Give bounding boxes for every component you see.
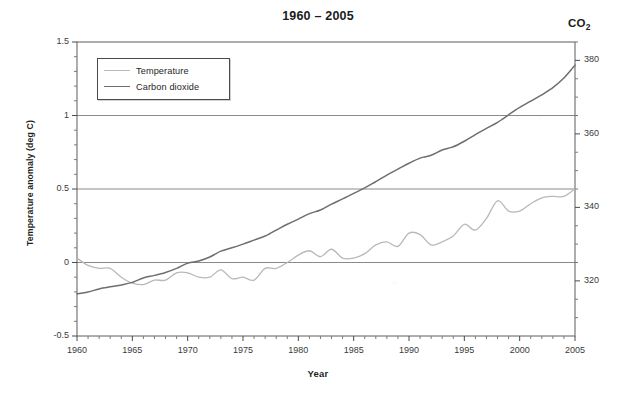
- legend-swatch-carbon-dioxide: [104, 86, 130, 87]
- legend-item-carbon-dioxide: Carbon dioxide: [104, 79, 199, 94]
- right-axis-tick-label: 340: [584, 201, 628, 211]
- legend-label-temperature: Temperature: [136, 66, 189, 76]
- legend-swatch-temperature: [104, 70, 130, 71]
- x-axis-tick-label: 1980: [276, 345, 320, 355]
- right-axis-tick-label: 380: [584, 54, 628, 64]
- legend-item-temperature: Temperature: [104, 63, 189, 78]
- y-axis-tick-label: -0.5: [29, 330, 69, 340]
- right-axis-tick-label: 320: [584, 275, 628, 285]
- y-axis-tick-label: 0.5: [29, 183, 69, 193]
- x-axis-tick-label: 1985: [332, 345, 376, 355]
- x-axis-tick-label: 1970: [166, 345, 210, 355]
- x-axis-tick-label: 1975: [221, 345, 265, 355]
- legend-label-carbon-dioxide: Carbon dioxide: [136, 82, 199, 92]
- y-axis-tick-label: 1: [29, 110, 69, 120]
- x-axis-tick-label: 2005: [553, 345, 597, 355]
- x-axis-tick-label: 1965: [110, 345, 154, 355]
- chart-figure: 1960 – 2005 CO2 Temperature anomaly (deg…: [0, 0, 636, 393]
- legend: Temperature Carbon dioxide: [97, 58, 230, 100]
- x-axis-tick-label: 1990: [387, 345, 431, 355]
- y-axis-tick-label: 1.5: [29, 36, 69, 46]
- x-axis-tick-label: 2000: [498, 345, 542, 355]
- x-axis-tick-label: 1960: [55, 345, 99, 355]
- y-axis-tick-label: 0: [29, 257, 69, 267]
- right-axis-tick-label: 360: [584, 128, 628, 138]
- x-axis-tick-label: 1995: [442, 345, 486, 355]
- plot-canvas: [0, 0, 636, 393]
